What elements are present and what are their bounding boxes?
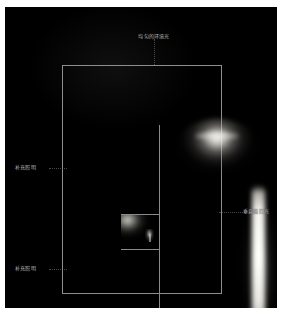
label-accent-lighting-lower: 补充照明 (15, 265, 49, 272)
leader-line-ambient (154, 39, 155, 65)
vertical-wall-light-strip (252, 185, 265, 308)
lighting-render-canvas: 均匀的环境光 补充照明 补充照明 垂直面灯光 (5, 7, 277, 308)
vertical-wall-light-halo (239, 174, 277, 308)
accent-alcove-upper (121, 215, 159, 249)
partition-wall-vertical-lower (159, 249, 160, 308)
label-ambient-ceiling-light: 均匀的环境光 (128, 33, 180, 40)
page-background: 均匀的环境光 补充照明 补充照明 垂直面灯光 (0, 0, 282, 319)
label-accent-lighting-upper: 补充照明 (15, 164, 49, 171)
ceiling-ambient-light-glow (171, 118, 263, 196)
partition-wall-horizontal-middle (121, 249, 160, 250)
partition-wall-vertical-upper (159, 125, 160, 215)
leader-line-vertical-wall (219, 212, 245, 213)
partition-wall-vertical-middle (159, 214, 160, 250)
label-vertical-wall-light: 垂直面灯光 (243, 208, 277, 215)
ceiling-ambient-light-core (195, 132, 239, 140)
room-outline (62, 65, 222, 294)
plant-silhouette (145, 229, 154, 242)
